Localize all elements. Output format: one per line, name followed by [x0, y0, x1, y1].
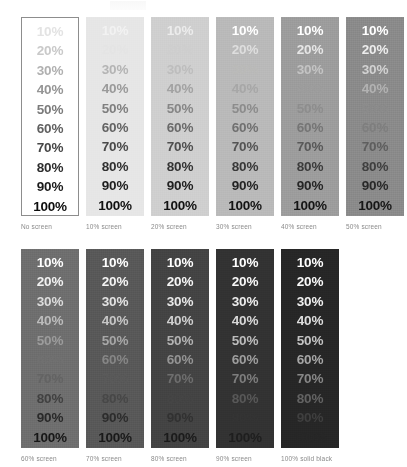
- swatch-caption: 20% screen: [151, 222, 223, 231]
- swatch-column-30: 10%20%30%40%50%60%70%80%90%100%30% scree…: [216, 17, 274, 216]
- tint-label-70pct: 70%: [37, 138, 63, 157]
- tint-label-30pct: 30%: [167, 292, 193, 311]
- tint-label-80pct: 80%: [232, 157, 258, 176]
- tint-label-30pct: 30%: [232, 292, 258, 311]
- tint-label-100pct: 100%: [228, 428, 262, 447]
- tint-label-60pct: 60%: [37, 119, 63, 138]
- tint-label-60pct: 60%: [297, 350, 323, 369]
- tint-label-80pct: 80%: [297, 157, 323, 176]
- tint-label-90pct: 90%: [167, 176, 193, 195]
- swatch-caption: No screen: [21, 222, 93, 231]
- tint-label-90pct: 90%: [167, 408, 193, 427]
- tint-label-80pct: 80%: [102, 157, 128, 176]
- tint-label-80pct: 80%: [362, 157, 388, 176]
- tint-label-30pct: 30%: [37, 292, 63, 311]
- tint-label-100pct: 100%: [358, 196, 392, 215]
- tint-label-10pct: 10%: [102, 21, 128, 40]
- swatch-0-percent: 10%20%30%40%50%60%70%80%90%100%: [21, 17, 79, 216]
- tint-label-80pct: 80%: [102, 389, 128, 408]
- tint-label-10pct: 10%: [102, 253, 128, 272]
- swatch-column-0: 10%20%30%40%50%60%70%80%90%100%No screen: [21, 17, 79, 216]
- swatch-row-row-top: 10%20%30%40%50%60%70%80%90%100%No screen…: [21, 17, 404, 216]
- tint-label-70pct: 70%: [167, 137, 193, 156]
- tint-label-60pct: 60%: [297, 118, 323, 137]
- tint-label-50pct: 50%: [297, 99, 323, 118]
- swatch-caption: 50% screen: [346, 222, 407, 231]
- tint-label-70pct: 70%: [37, 369, 63, 388]
- swatch-40-percent: 10%20%30%40%50%60%70%80%90%100%: [281, 17, 339, 216]
- tint-label-70pct: 70%: [297, 369, 323, 388]
- tint-label-80pct: 80%: [37, 389, 63, 408]
- tint-label-40pct: 40%: [37, 80, 63, 99]
- tint-label-20pct: 20%: [102, 272, 128, 291]
- tint-label-100pct: 100%: [228, 196, 262, 215]
- tint-label-40pct: 40%: [102, 79, 128, 98]
- swatch-caption: 80% screen: [151, 454, 223, 463]
- tint-label-50pct: 50%: [37, 100, 63, 119]
- tint-label-60pct: 60%: [102, 118, 128, 137]
- swatch-column-100: 10%20%30%40%50%60%70%80%90%100%100% soli…: [281, 249, 339, 448]
- swatch-10-percent: 10%20%30%40%50%60%70%80%90%100%: [86, 17, 144, 216]
- tint-label-60pct: 60%: [167, 350, 193, 369]
- swatch-caption: 90% screen: [216, 454, 288, 463]
- tint-label-90pct: 90%: [297, 176, 323, 195]
- tint-label-90pct: 90%: [37, 177, 63, 196]
- swatch-column-50: 10%20%30%40%50%60%70%80%90%100%50% scree…: [346, 17, 404, 216]
- tint-label-60pct: 60%: [102, 350, 128, 369]
- tint-label-100pct: 100%: [98, 428, 132, 447]
- tint-label-20pct: 20%: [37, 41, 63, 60]
- swatch-caption: 60% screen: [21, 454, 93, 463]
- tint-label-20pct: 20%: [232, 272, 258, 291]
- tint-label-60pct: 60%: [37, 350, 63, 369]
- tint-label-30pct: 30%: [297, 292, 323, 311]
- swatch-column-90: 10%20%30%40%50%60%70%80%90%100%90% scree…: [216, 249, 274, 448]
- tint-label-10pct: 10%: [232, 21, 258, 40]
- tint-label-90pct: 90%: [297, 408, 323, 427]
- swatch-caption: 100% solid black: [281, 454, 353, 463]
- swatch-column-10: 10%20%30%40%50%60%70%80%90%100%10% scree…: [86, 17, 144, 216]
- tint-label-10pct: 10%: [297, 21, 323, 40]
- tint-legibility-chart: 10%20%30%40%50%60%70%80%90%100%No screen…: [0, 0, 407, 467]
- tint-label-100pct: 100%: [293, 428, 327, 447]
- tint-label-100pct: 100%: [33, 197, 67, 216]
- tint-label-10pct: 10%: [37, 22, 63, 41]
- swatch-80-percent: 10%20%30%40%50%60%70%80%90%100%: [151, 249, 209, 448]
- tint-label-30pct: 30%: [102, 292, 128, 311]
- tint-label-40pct: 40%: [362, 79, 388, 98]
- tint-label-10pct: 10%: [167, 21, 193, 40]
- tint-label-100pct: 100%: [163, 428, 197, 447]
- tint-label-40pct: 40%: [102, 311, 128, 330]
- tint-label-40pct: 40%: [37, 311, 63, 330]
- tint-label-80pct: 80%: [167, 157, 193, 176]
- swatch-50-percent: 10%20%30%40%50%60%70%80%90%100%: [346, 17, 404, 216]
- tint-label-40pct: 40%: [167, 79, 193, 98]
- tint-label-30pct: 30%: [102, 60, 128, 79]
- tint-label-50pct: 50%: [232, 99, 258, 118]
- tint-label-30pct: 30%: [37, 61, 63, 80]
- tint-label-30pct: 30%: [362, 60, 388, 79]
- tint-label-50pct: 50%: [362, 99, 388, 118]
- tint-label-40pct: 40%: [232, 79, 258, 98]
- tint-label-10pct: 10%: [167, 253, 193, 272]
- tint-label-50pct: 50%: [167, 99, 193, 118]
- tint-label-50pct: 50%: [167, 331, 193, 350]
- swatch-column-80: 10%20%30%40%50%60%70%80%90%100%80% scree…: [151, 249, 209, 448]
- tint-label-70pct: 70%: [362, 137, 388, 156]
- tint-label-50pct: 50%: [102, 99, 128, 118]
- tint-label-70pct: 70%: [102, 137, 128, 156]
- tint-label-20pct: 20%: [102, 40, 128, 59]
- tint-label-70pct: 70%: [297, 137, 323, 156]
- tint-label-70pct: 70%: [102, 369, 128, 388]
- swatch-caption: 30% screen: [216, 222, 288, 231]
- tint-label-100pct: 100%: [163, 196, 197, 215]
- tint-label-70pct: 70%: [232, 137, 258, 156]
- tint-label-50pct: 50%: [297, 331, 323, 350]
- tint-label-20pct: 20%: [167, 40, 193, 59]
- tint-label-90pct: 90%: [232, 176, 258, 195]
- tint-label-20pct: 20%: [297, 272, 323, 291]
- swatch-column-20: 10%20%30%40%50%60%70%80%90%100%20% scree…: [151, 17, 209, 216]
- tint-label-30pct: 30%: [297, 60, 323, 79]
- tint-label-20pct: 20%: [297, 40, 323, 59]
- tint-label-60pct: 60%: [167, 118, 193, 137]
- tint-label-20pct: 20%: [362, 40, 388, 59]
